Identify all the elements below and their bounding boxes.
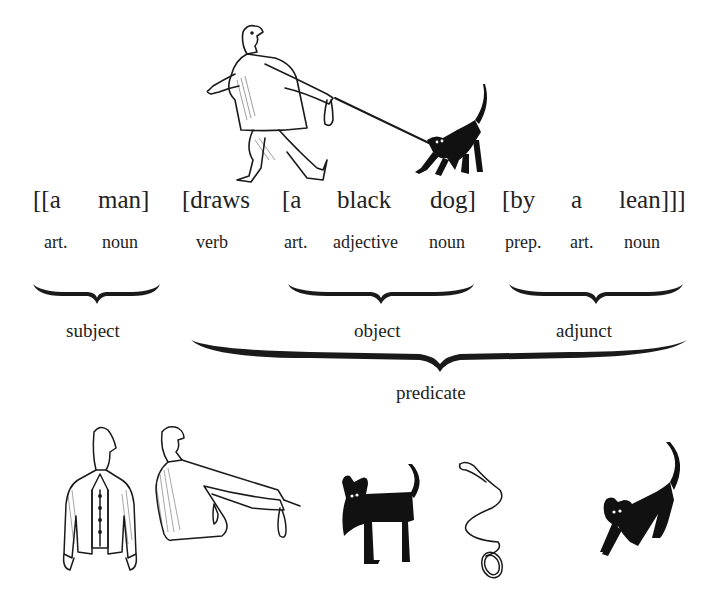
subject-brace [32,282,162,306]
pos-art-1: art. [44,232,67,253]
pos-art-3: art. [570,232,593,253]
subject-label: subject [66,320,120,342]
pos-noun-2: noun [429,232,465,253]
adjunct-brace [508,282,684,306]
word-black: black [337,186,391,214]
word-a-1: [[a [33,186,61,214]
pos-noun-1: noun [102,232,138,253]
adjunct-label: adjunct [556,320,612,342]
object-brace [287,282,475,306]
word-draws: [draws [182,186,250,214]
pos-prep: prep. [505,232,541,253]
black-dog-pulling-illustration [594,442,680,566]
pos-noun-3: noun [624,232,660,253]
object-label: object [354,320,400,342]
man-arm-leash-illustration [152,424,302,556]
predicate-brace [190,338,688,374]
leash-illustration [456,460,516,580]
predicate-label: predicate [396,382,466,404]
word-dog: dog] [430,186,476,214]
word-by: [by [502,186,535,214]
pos-adjective: adjective [333,232,398,253]
man-front-view-illustration [52,424,148,576]
man-walking-dog-illustration [195,20,495,185]
word-a-2: [a [282,186,301,214]
pos-art-2: art. [284,232,307,253]
word-lean: lean]]] [619,186,686,214]
black-dog-standing-illustration [338,464,422,570]
pos-verb: verb [196,232,228,253]
word-man: man] [98,186,149,214]
word-a-3: a [571,186,582,214]
